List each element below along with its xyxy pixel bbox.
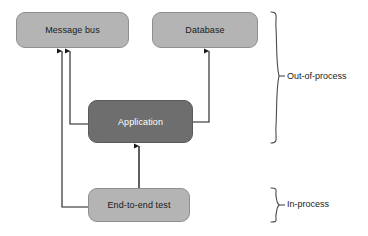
node-database-label: Database <box>185 25 224 35</box>
brace-in-process <box>271 188 279 222</box>
node-end-to-end-test[interactable]: End-to-end test <box>88 188 190 222</box>
group-in-process-text: In-process <box>287 199 329 209</box>
node-application[interactable]: Application <box>88 100 193 143</box>
edge-application-to-message-bus <box>70 51 88 124</box>
node-application-label: Application <box>118 117 163 127</box>
edge-end-to-end-test-to-message-bus <box>62 51 88 207</box>
diagram-canvas: Message bus Database Application End-to-… <box>0 0 368 236</box>
node-message-bus-label: Message bus <box>45 25 100 35</box>
group-out-of-process-text: Out-of-process <box>287 71 347 81</box>
group-label-in-process: In-process <box>287 199 329 209</box>
node-end-to-end-test-label: End-to-end test <box>107 200 170 210</box>
brace-out-of-process <box>271 12 279 143</box>
edge-application-to-database <box>193 51 209 122</box>
node-database[interactable]: Database <box>152 12 258 48</box>
group-label-out-of-process: Out-of-process <box>287 71 347 81</box>
node-message-bus[interactable]: Message bus <box>16 12 129 48</box>
